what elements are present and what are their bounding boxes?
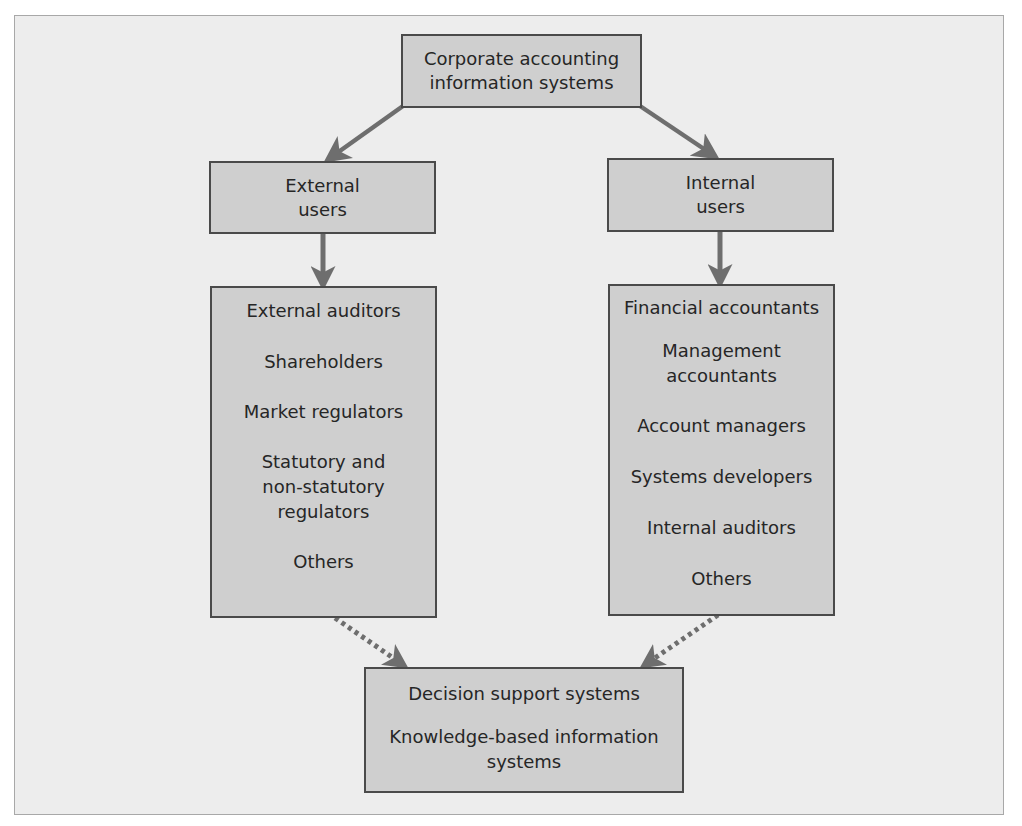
external-item: Statutory and non-statutory regulators	[262, 449, 386, 524]
internal-item: Internal auditors	[647, 515, 796, 540]
external-item: Others	[293, 549, 354, 574]
external-users-line-2: users	[298, 198, 347, 222]
internal-item: Financial accountants	[624, 295, 819, 320]
internal-users-line-2: users	[696, 195, 745, 219]
internal-users-line-1: Internal	[686, 171, 755, 195]
external-item: Shareholders	[264, 349, 383, 374]
outcome-item: Decision support systems	[408, 681, 640, 706]
external-users-list: External auditors Shareholders Market re…	[210, 286, 437, 618]
internal-item: Systems developers	[631, 464, 813, 489]
internal-users-list: Financial accountants Management account…	[608, 284, 835, 616]
external-item: External auditors	[246, 298, 400, 323]
internal-users-box: Internal users	[607, 158, 834, 232]
decision-support-box: Decision support systems Knowledge-based…	[364, 667, 684, 793]
internal-item: Management accountants	[662, 338, 781, 388]
external-item: Market regulators	[244, 399, 403, 424]
external-users-box: External users	[209, 161, 436, 234]
internal-item: Account managers	[637, 413, 806, 438]
root-title-line-2: information systems	[429, 71, 613, 95]
root-title-line-1: Corporate accounting	[424, 47, 619, 71]
internal-item: Others	[691, 566, 752, 591]
external-users-line-1: External	[285, 174, 360, 198]
root-box-corporate-ais: Corporate accounting information systems	[401, 34, 642, 108]
outcome-item: Knowledge-based information systems	[389, 724, 658, 774]
